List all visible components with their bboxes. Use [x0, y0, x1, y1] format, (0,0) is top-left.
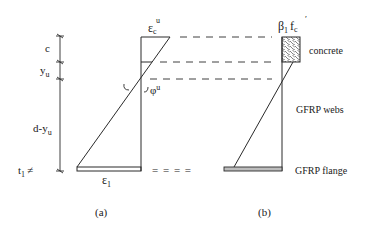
strain-top-sup: u — [156, 16, 160, 25]
caption-a: (a) — [95, 206, 108, 219]
stress-label-prime: ′ — [305, 14, 307, 24]
dim-label-c: c — [45, 42, 50, 54]
gfrp-flange-label: GFRP flange — [295, 165, 348, 176]
dim-label-d-minus-yu: d-yu — [33, 122, 52, 137]
dimension-line — [56, 34, 64, 173]
strain-profile — [77, 37, 170, 171]
gfrp-flange-block — [224, 167, 282, 171]
concrete-label: concrete — [309, 45, 343, 56]
caption-b: (b) — [258, 206, 271, 219]
gfrp-webs-label: GFRP webs — [296, 104, 344, 115]
stress-label: β1fc — [278, 19, 298, 35]
flange-connector: = = = = — [152, 164, 192, 176]
dashed-connectors — [150, 37, 272, 79]
dim-label-t1: t1≠ — [18, 164, 33, 179]
dim-label-yu: yu — [40, 64, 50, 79]
curvature-label: φu — [150, 83, 160, 96]
strain-bottom-label: ε1 — [102, 173, 111, 189]
strain-stress-diagram: c yu d-yu t1≠ εc u φu ε1 (a) = = = = β1f… — [0, 0, 370, 230]
concrete-stress-block — [282, 37, 300, 62]
